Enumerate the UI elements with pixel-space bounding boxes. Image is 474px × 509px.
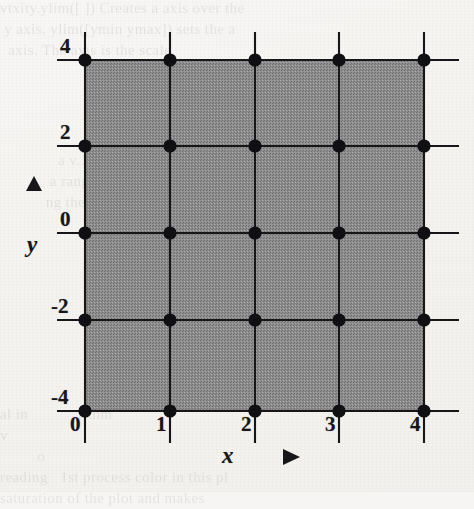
- x-tick-label: 0: [70, 414, 81, 435]
- mesh-node: [248, 226, 261, 239]
- mesh-node: [248, 313, 261, 326]
- mesh-node: [163, 226, 176, 239]
- mesh-node: [417, 53, 430, 66]
- y-tick-label: -4: [51, 387, 69, 408]
- x-tick-label: 4: [410, 414, 421, 435]
- x-tick-label: 3: [325, 414, 336, 435]
- mesh-node: [417, 139, 430, 152]
- x-tick-label: 1: [156, 414, 167, 435]
- mesh-node: [78, 226, 91, 239]
- y-tick-label: -2: [51, 296, 69, 317]
- mesh-node: [163, 139, 176, 152]
- mesh-node: [78, 139, 91, 152]
- mesh-node: [332, 226, 345, 239]
- mesh-node: [248, 53, 261, 66]
- mesh-node: [332, 313, 345, 326]
- y-tick-label: 2: [60, 122, 71, 143]
- mesh-node: [417, 313, 430, 326]
- mesh-node: [163, 53, 176, 66]
- x-axis-label: x: [222, 445, 234, 466]
- y-tick-label: 0: [60, 209, 71, 230]
- up-triangle-icon: [26, 176, 42, 191]
- mesh-node: [78, 313, 91, 326]
- mesh-node: [332, 139, 345, 152]
- mesh-node: [248, 139, 261, 152]
- x-tick-label: 2: [241, 414, 252, 435]
- y-axis-label: y: [27, 234, 37, 255]
- right-triangle-icon: [283, 449, 300, 465]
- mesh-node: [417, 226, 430, 239]
- y-tick-label: 4: [60, 36, 71, 57]
- mesh-node: [332, 53, 345, 66]
- mesh-node: [78, 53, 91, 66]
- mesh-node: [163, 313, 176, 326]
